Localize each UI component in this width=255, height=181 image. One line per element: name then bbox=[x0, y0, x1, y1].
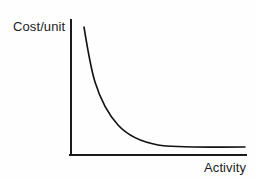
x-axis-label: Activity bbox=[204, 160, 246, 175]
cost-per-unit-chart: Cost/unit Activity bbox=[0, 0, 255, 181]
y-axis-label: Cost/unit bbox=[13, 19, 65, 34]
